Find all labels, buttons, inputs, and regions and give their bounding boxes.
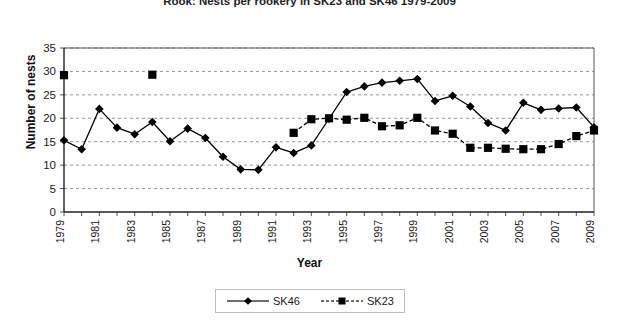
data-point-sk46-2004	[501, 126, 510, 135]
data-point-sk46-1983	[130, 130, 139, 139]
data-point-sk23-1979	[60, 71, 68, 79]
chart-container: Rook: Nests per rookery in SK23 and SK46…	[0, 0, 619, 329]
chart-legend: SK46 SK23	[215, 289, 405, 313]
svg-text:1987: 1987	[195, 220, 207, 244]
series-line-sk23	[294, 118, 594, 149]
data-point-sk23-1996	[360, 114, 368, 122]
svg-text:25: 25	[43, 89, 56, 101]
svg-text:1995: 1995	[337, 220, 349, 244]
data-point-sk23-2001	[449, 130, 457, 138]
legend-label-sk46: SK46	[273, 295, 300, 307]
data-point-sk46-1980	[77, 145, 86, 154]
data-point-sk23-2000	[431, 126, 439, 134]
svg-text:2001: 2001	[443, 220, 455, 244]
svg-text:2009: 2009	[584, 220, 596, 244]
data-point-sk23-1992	[290, 129, 298, 137]
svg-text:1991: 1991	[266, 220, 278, 244]
svg-text:20: 20	[43, 112, 56, 124]
svg-text:5: 5	[50, 183, 56, 195]
svg-text:1979: 1979	[54, 220, 66, 244]
svg-text:2003: 2003	[478, 220, 490, 244]
x-axis-ticks: 1979198119831985198719891991199319951997…	[54, 212, 596, 243]
data-point-sk23-2004	[502, 145, 510, 153]
legend-item-sk23: SK23	[320, 295, 394, 307]
svg-text:1983: 1983	[125, 220, 137, 244]
svg-text:1985: 1985	[160, 220, 172, 244]
svg-text:0: 0	[50, 206, 56, 218]
svg-text:2005: 2005	[513, 220, 525, 244]
svg-text:1989: 1989	[231, 220, 243, 244]
legend-marker-sk23-icon	[320, 295, 364, 307]
svg-text:1993: 1993	[301, 220, 313, 244]
data-point-sk46-1995	[342, 88, 351, 97]
svg-text:1981: 1981	[89, 220, 101, 244]
data-point-sk46-1997	[378, 78, 387, 87]
data-point-sk46-2006	[537, 106, 546, 115]
y-axis-ticks: 05101520253035	[43, 42, 64, 218]
legend-marker-sk46-icon	[226, 295, 270, 307]
data-point-sk46-2007	[554, 104, 563, 113]
data-point-sk23-1995	[343, 116, 351, 124]
data-point-sk46-1992	[289, 149, 298, 158]
data-point-sk23-1993	[307, 115, 315, 123]
data-point-sk23-1998	[396, 121, 404, 129]
data-point-sk23-2006	[537, 145, 545, 153]
data-point-sk46-1996	[360, 82, 369, 91]
data-point-sk23-1997	[378, 122, 386, 130]
x-axis-title: Year	[0, 256, 619, 270]
data-point-sk23-2003	[484, 144, 492, 152]
data-point-sk46-1989	[236, 165, 245, 174]
data-point-sk23-1994	[325, 114, 333, 122]
svg-text:2007: 2007	[549, 220, 561, 244]
legend-item-sk46: SK46	[226, 295, 300, 307]
data-point-sk46-1993	[307, 141, 316, 150]
legend-label-sk23: SK23	[367, 295, 394, 307]
data-point-sk46-1998	[395, 77, 404, 86]
data-point-sk23-1999	[413, 114, 421, 122]
axis-lines	[64, 48, 594, 212]
svg-text:10: 10	[43, 159, 56, 171]
data-point-sk46-1979	[60, 136, 69, 145]
svg-text:1999: 1999	[407, 220, 419, 244]
data-point-sk46-2001	[448, 91, 457, 100]
data-point-sk23-2002	[466, 144, 474, 152]
svg-text:1997: 1997	[372, 220, 384, 244]
data-series-layer	[60, 71, 599, 175]
data-point-sk23-2009	[590, 126, 598, 134]
svg-text:15: 15	[43, 136, 56, 148]
data-point-sk23-2007	[555, 140, 563, 148]
data-point-sk23-2008	[572, 132, 580, 140]
data-point-sk23-1984	[148, 71, 156, 79]
plot-area: 05101520253035 1979198119831985198719891…	[0, 0, 619, 329]
data-point-sk46-1986	[183, 124, 192, 133]
svg-text:35: 35	[43, 42, 56, 54]
svg-text:30: 30	[43, 65, 56, 77]
series-line-sk46	[64, 79, 594, 170]
data-point-sk46-2005	[519, 99, 528, 108]
data-point-sk23-2005	[519, 145, 527, 153]
